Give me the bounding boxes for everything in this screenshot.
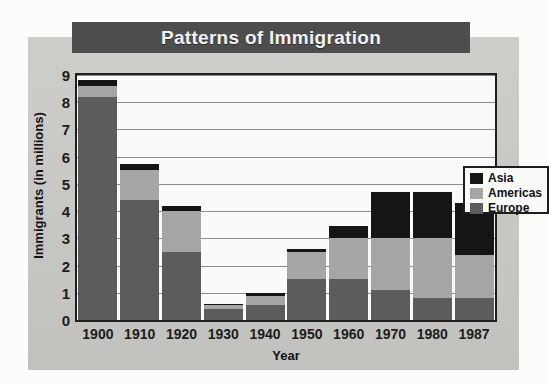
bar-segment-1950-americas xyxy=(287,252,326,279)
bar-segment-1987-americas xyxy=(455,255,494,299)
x-tick-1910: 1910 xyxy=(124,326,155,342)
bar-segment-1920-americas xyxy=(162,211,201,252)
bar-segment-1950-europe xyxy=(287,279,326,320)
bar-segment-1940-europe xyxy=(246,305,285,320)
bar-segment-1960-asia xyxy=(329,226,368,238)
bar-segment-1920-europe xyxy=(162,252,201,320)
y-tick-2: 2 xyxy=(62,258,70,273)
chart-legend: Asia Americas Europe xyxy=(463,166,549,214)
y-tick-6: 6 xyxy=(62,149,70,164)
bar-segment-1940-americas xyxy=(246,296,285,306)
legend-item-asia: Asia xyxy=(470,171,543,185)
bar-segment-1900-europe xyxy=(78,97,117,320)
bar-segment-1910-asia xyxy=(120,164,159,171)
bar-segment-1960-europe xyxy=(329,279,368,320)
bar-segment-1970-americas xyxy=(371,238,410,290)
x-tick-1960: 1960 xyxy=(333,326,364,342)
bar-segment-1910-americas xyxy=(120,170,159,200)
legend-swatch-asia xyxy=(470,173,483,184)
bar-segment-1900-americas xyxy=(78,86,117,97)
bar-segment-1970-asia xyxy=(371,192,410,238)
bar-segment-1960-americas xyxy=(329,238,368,279)
x-tick-1920: 1920 xyxy=(166,326,197,342)
bar-1960[interactable] xyxy=(329,226,368,320)
x-axis-tick-labels: 1900191019201930194019501960197019801987 xyxy=(75,326,497,346)
bar-segment-1987-europe xyxy=(455,298,494,320)
chart-page: Patterns of Immigration 0123456789 Immig… xyxy=(0,0,549,384)
y-tick-8: 8 xyxy=(62,95,70,110)
bar-segment-1980-europe xyxy=(413,298,452,320)
x-tick-1900: 1900 xyxy=(82,326,113,342)
legend-swatch-europe xyxy=(470,203,483,214)
y-tick-3: 3 xyxy=(62,231,70,246)
y-tick-1: 1 xyxy=(62,285,70,300)
y-tick-4: 4 xyxy=(62,204,70,219)
page-title: Patterns of Immigration xyxy=(161,27,381,49)
legend-label-americas: Americas xyxy=(488,187,542,199)
bar-1970[interactable] xyxy=(371,192,410,320)
bar-1900[interactable] xyxy=(78,80,117,320)
bar-segment-1930-europe xyxy=(204,309,243,320)
x-tick-1987: 1987 xyxy=(459,326,490,342)
bar-1987[interactable] xyxy=(455,203,494,320)
y-tick-0: 0 xyxy=(62,313,70,328)
bar-series-group xyxy=(77,75,495,320)
x-tick-1980: 1980 xyxy=(417,326,448,342)
y-tick-5: 5 xyxy=(62,176,70,191)
bar-1930[interactable] xyxy=(204,304,243,320)
bar-1950[interactable] xyxy=(287,249,326,320)
x-tick-1970: 1970 xyxy=(375,326,406,342)
x-axis-title: Year xyxy=(75,348,497,363)
bar-segment-1970-europe xyxy=(371,290,410,320)
x-tick-1950: 1950 xyxy=(291,326,322,342)
bar-1980[interactable] xyxy=(413,192,452,320)
bar-segment-1910-europe xyxy=(120,200,159,320)
legend-swatch-americas xyxy=(470,188,483,199)
bar-segment-1980-asia xyxy=(413,192,452,238)
y-axis-title: Immigrants (in millions) xyxy=(31,86,46,286)
bar-segment-1980-americas xyxy=(413,238,452,298)
legend-item-europe: Europe xyxy=(470,201,543,215)
y-axis-tick-labels: 0123456789 xyxy=(46,73,70,322)
legend-label-europe: Europe xyxy=(488,202,529,214)
plot-area: Asia Americas Europe xyxy=(75,73,497,322)
bar-1910[interactable] xyxy=(120,164,159,321)
y-tick-9: 9 xyxy=(62,68,70,83)
bar-1920[interactable] xyxy=(162,206,201,320)
y-tick-7: 7 xyxy=(62,122,70,137)
x-tick-1940: 1940 xyxy=(250,326,281,342)
legend-label-asia: Asia xyxy=(488,172,513,184)
chart-title-bar: Patterns of Immigration xyxy=(72,22,470,53)
legend-item-americas: Americas xyxy=(470,186,543,200)
x-tick-1930: 1930 xyxy=(208,326,239,342)
bar-1940[interactable] xyxy=(246,293,285,320)
